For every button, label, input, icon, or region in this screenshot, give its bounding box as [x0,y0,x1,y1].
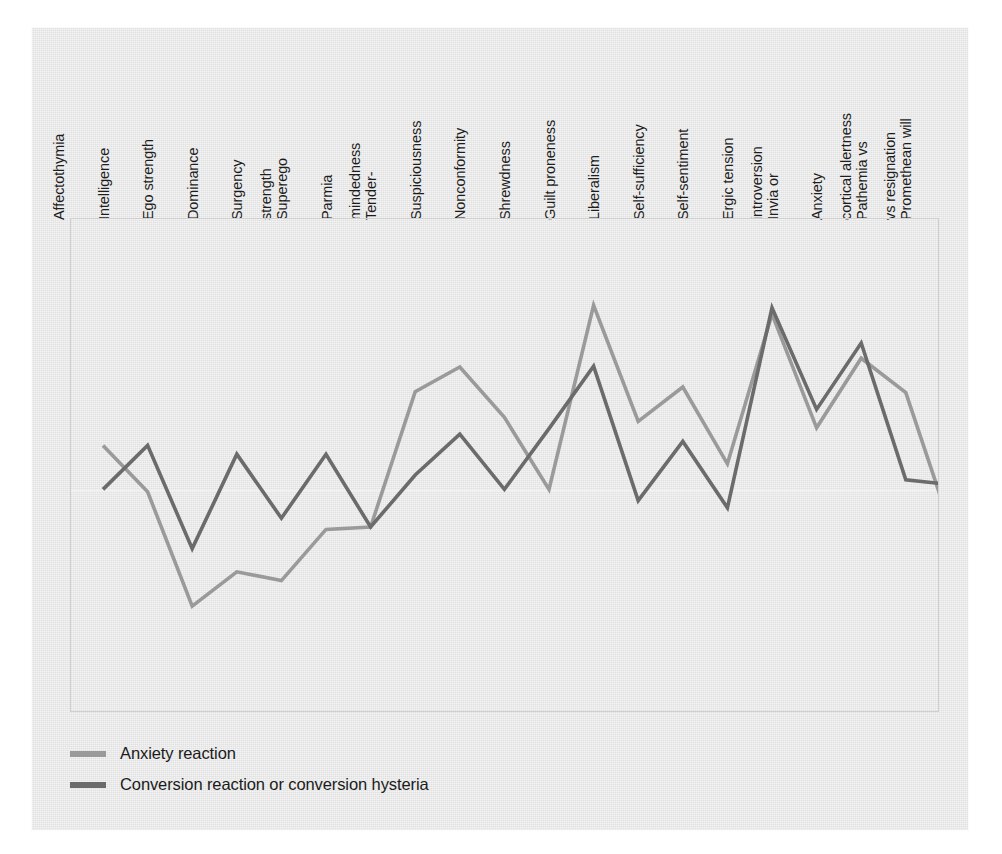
line-chart-svg [71,219,938,711]
x-axis-label-10: Shrewdness [497,141,513,220]
figure-panel: AffectothymiaIntelligenceEgo strengthDom… [32,28,968,830]
x-axis-label-5-line-0: Superego [274,158,290,220]
x-axis-label-18: Pathemia vscortical alertness [838,113,870,220]
legend-item-1[interactable]: Conversion reaction or conversion hyster… [70,769,870,800]
x-axis-label-17: Anxiety [809,173,825,220]
x-axis-label-15-line-0: Ergic tension [720,137,736,220]
legend-swatch-conversion [70,782,106,788]
x-axis-label-18-line-1: cortical alertness [838,113,854,220]
x-axis-label-3: Dominance [185,148,201,220]
x-axis-label-14-line-0: Self-sentiment [675,129,691,220]
x-axis-label-3-line-0: Dominance [185,148,201,220]
x-axis-label-10-line-0: Shrewdness [497,141,513,220]
x-axis-label-2: Ego strength [140,139,156,220]
x-axis-label-9-line-0: Nonconformity [452,128,468,220]
x-axis-label-8-line-0: Suspiciousness [408,121,424,220]
x-axis-label-12-line-0: Liberalism [586,155,602,220]
x-axis-label-6: Parmia [319,175,335,220]
series-line-1 [103,308,938,549]
x-axis-label-1-line-0: Intelligence [96,148,112,220]
x-axis-label-11: Guilt proneness [542,120,558,220]
x-axis-label-19-line-1: vs resignation [882,118,898,220]
legend-label-1: Conversion reaction or conversion hyster… [120,775,429,794]
legend: Anxiety reaction Conversion reaction or … [70,738,870,800]
legend-item-0[interactable]: Anxiety reaction [70,738,870,769]
x-axis-label-0: Affectothymia [51,134,67,220]
x-axis-label-13-line-0: Self-sufficiency [631,124,647,220]
x-axis-label-19-line-0: Promethean will [898,118,914,220]
x-axis-label-2-line-0: Ego strength [140,139,156,220]
x-axis-label-16-line-1: introversion [749,146,765,220]
x-axis-label-19: Promethean willvs resignation [882,118,914,220]
x-axis-label-0-line-0: Affectothymia [51,134,67,220]
x-axis-label-5-line-1: strength [258,158,274,220]
x-axis-label-8: Suspiciousness [408,121,424,220]
x-axis-category-labels: AffectothymiaIntelligenceEgo strengthDom… [32,28,968,220]
x-axis-label-5: Superegostrength [258,158,290,220]
x-axis-label-7: Tender-mindedness [347,143,379,220]
x-axis-label-15: Ergic tension [720,137,736,220]
x-axis-label-7-line-0: Tender- [363,143,379,220]
x-axis-label-13: Self-sufficiency [631,124,647,220]
x-axis-label-18-line-0: Pathemia vs [854,113,870,220]
series-line-0 [103,305,938,606]
plot-area [70,218,939,712]
x-axis-label-7-line-1: mindedness [347,143,363,220]
x-axis-label-17-line-0: Anxiety [809,173,825,220]
x-axis-label-4-line-0: Surgency [229,160,245,220]
x-axis-label-14: Self-sentiment [675,129,691,220]
x-axis-label-9: Nonconformity [452,128,468,220]
x-axis-label-12: Liberalism [586,155,602,220]
x-axis-label-1: Intelligence [96,148,112,220]
x-axis-label-16: Invia orintroversion [749,146,781,220]
legend-swatch-anxiety [70,751,106,757]
x-axis-label-16-line-0: Invia or [765,146,781,220]
legend-label-0: Anxiety reaction [120,744,236,763]
x-axis-label-6-line-0: Parmia [319,175,335,220]
x-axis-label-11-line-0: Guilt proneness [542,120,558,220]
x-axis-label-4: Surgency [229,160,245,220]
